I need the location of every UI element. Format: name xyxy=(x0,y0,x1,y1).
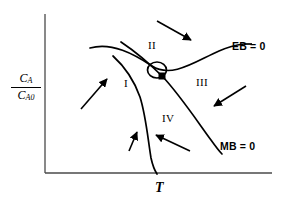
arrow-region-1 xyxy=(81,79,107,109)
region-label-ii: II xyxy=(148,40,156,51)
y-axis-numerator-subscript: A xyxy=(28,76,33,85)
y-axis-label: CA CA0 xyxy=(8,72,44,103)
arrow-region-3 xyxy=(214,86,246,106)
x-axis-label: T xyxy=(155,181,164,195)
y-axis-label-denominator: CA0 xyxy=(8,89,44,103)
steady-state-point-marker xyxy=(159,73,166,80)
arrow-on-mb-curve xyxy=(129,132,137,151)
arrow-region-4 xyxy=(156,135,190,151)
mb-curve-lower-branch xyxy=(113,56,157,174)
region-label-i: I xyxy=(124,78,128,89)
direction-arrows xyxy=(81,21,246,151)
y-axis-denominator-subscript: A0 xyxy=(26,93,35,102)
eb-curve-label: EB = 0 xyxy=(232,41,266,52)
y-axis-label-numerator: CA xyxy=(8,72,44,86)
fraction-bar xyxy=(11,87,41,88)
mb-curve xyxy=(121,42,222,154)
arrow-region-2 xyxy=(157,21,191,40)
region-label-iv: IV xyxy=(162,113,174,124)
eb-curve xyxy=(90,44,244,71)
figure-canvas: CA CA0 T I II III IV EB = 0 MB = 0 xyxy=(0,0,286,203)
mb-curve-label: MB = 0 xyxy=(220,141,255,152)
region-label-iii: III xyxy=(196,77,208,88)
